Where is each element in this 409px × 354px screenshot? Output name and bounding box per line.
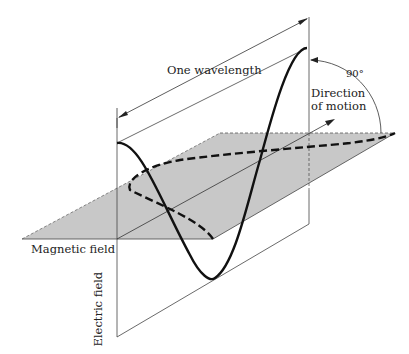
em-wave-diagram <box>0 0 409 354</box>
direction-label-line2: of motion <box>311 100 366 113</box>
wavelength-arrow-left-icon <box>118 111 128 118</box>
magnetic-plane <box>22 133 395 239</box>
wavelength-label: One wavelength <box>167 64 262 77</box>
direction-arrowhead-icon <box>325 119 335 126</box>
wavelength-arrow-right-icon <box>298 18 308 25</box>
electric-field-label: Electric field <box>92 267 105 347</box>
efield-bottom-edge <box>117 224 309 337</box>
angle-label: 90° <box>346 67 364 80</box>
angle-arrowhead-icon <box>310 57 318 63</box>
magnetic-field-label: Magnetic field <box>31 243 115 256</box>
